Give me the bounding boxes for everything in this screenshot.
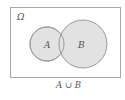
set-b-label: B (77, 40, 85, 50)
set-a-label: A (43, 40, 51, 50)
universe-label: Ω (16, 12, 25, 22)
venn-diagram: Ω A B A ∪ B (0, 0, 125, 100)
caption: A ∪ B (55, 80, 81, 90)
